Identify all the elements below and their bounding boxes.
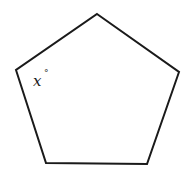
degree-symbol: ° [44,68,49,78]
angle-variable-label: x [33,72,42,90]
pentagon-diagram: x ° [0,0,185,174]
